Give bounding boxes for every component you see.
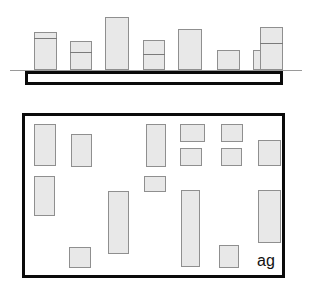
plan-room	[146, 124, 166, 167]
elevation-bar-divider	[34, 38, 57, 39]
elevation-bar-divider	[143, 54, 165, 55]
plan-room	[34, 176, 55, 216]
elevation-bar	[178, 29, 202, 70]
elevation-view	[0, 0, 309, 95]
elevation-bar	[260, 27, 283, 70]
technical-figure: ag	[0, 0, 309, 289]
elevation-bar-divider	[260, 43, 283, 44]
plan-room	[71, 134, 92, 167]
elevation-bar	[70, 41, 92, 70]
plan-room	[108, 191, 129, 254]
plan-room	[181, 190, 200, 267]
plan-room	[180, 124, 205, 142]
plan-room	[180, 148, 202, 166]
plan-room	[69, 247, 91, 268]
plan-label-text: ag	[257, 253, 275, 269]
elevation-bar	[143, 40, 165, 70]
elevation-bar	[105, 17, 129, 70]
plan-room	[34, 124, 56, 166]
plan-room	[219, 245, 239, 268]
plan-room	[144, 176, 166, 192]
foundation-slab	[25, 71, 283, 85]
plan-room	[221, 148, 242, 166]
plan-room	[258, 190, 281, 243]
elevation-bar-divider	[70, 52, 92, 53]
plan-room	[258, 140, 281, 166]
plan-room	[221, 124, 243, 142]
elevation-bar	[217, 50, 240, 70]
